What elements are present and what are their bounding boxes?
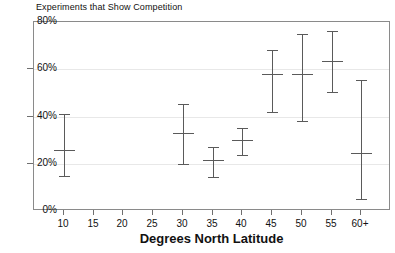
error-bar-mean-marker [262, 74, 283, 75]
error-bar-lower-cap [59, 176, 70, 177]
error-bar-lower-cap [297, 121, 308, 122]
error-bar-upper-cap [59, 114, 70, 115]
x-axis-tick-mark [122, 210, 123, 215]
plot-area [33, 21, 390, 210]
error-bar-mean-marker [173, 133, 194, 134]
error-bar-lower-cap [327, 92, 338, 93]
gridline [34, 164, 389, 165]
error-bar-upper-cap [297, 34, 308, 35]
error-bar-mean-marker [203, 160, 224, 161]
error-bar-mean-marker [351, 153, 372, 154]
y-axis-tick-mark [27, 68, 33, 69]
x-axis-tick-mark [152, 210, 153, 215]
error-bar-lower-cap [237, 155, 248, 156]
y-axis-tick-label: 80% [0, 16, 57, 26]
error-bar-lower-cap [178, 164, 189, 165]
error-bar-mean-marker [322, 61, 343, 62]
x-axis-tick-mark [63, 210, 64, 215]
x-axis-tick-mark [241, 210, 242, 215]
error-bar-upper-cap [267, 50, 278, 51]
x-axis-tick-mark [212, 210, 213, 215]
error-bar-upper-cap [237, 128, 248, 129]
x-axis-tick-mark [93, 210, 94, 215]
gridline [34, 117, 389, 118]
x-axis-tick-mark [182, 210, 183, 215]
x-axis-title: Degrees North Latitude [33, 231, 390, 246]
chart-title: Experiments that Show Competition [36, 1, 182, 13]
y-axis-tick-mark [27, 163, 33, 164]
error-bar-upper-cap [356, 80, 367, 81]
x-axis-tick-mark [331, 210, 332, 215]
error-bar-mean-marker [292, 74, 313, 75]
x-axis-tick-mark [301, 210, 302, 215]
error-bar-stem [242, 128, 243, 155]
error-bar-stem [361, 80, 362, 199]
error-bar-stem [272, 50, 273, 111]
gridline [34, 69, 389, 70]
error-bar-mean-marker [232, 140, 253, 141]
x-axis-tick-mark [360, 210, 361, 215]
error-bar-upper-cap [208, 147, 219, 148]
error-bar-stem [64, 114, 65, 175]
error-bar-lower-cap [267, 112, 278, 113]
error-bar-mean-marker [54, 150, 75, 151]
error-bar-stem [213, 147, 214, 177]
error-bar-upper-cap [178, 104, 189, 105]
error-bar-lower-cap [356, 199, 367, 200]
x-axis-tick-label: 60+ [340, 218, 380, 229]
x-axis-tick-mark [271, 210, 272, 215]
y-axis-tick-mark [27, 116, 33, 117]
chart-container: Experiments that Show Competition 0%20%4… [0, 0, 395, 253]
error-bar-lower-cap [208, 177, 219, 178]
y-axis-tick-label: 0% [0, 205, 57, 215]
error-bar-stem [302, 34, 303, 121]
error-bar-upper-cap [327, 31, 338, 32]
